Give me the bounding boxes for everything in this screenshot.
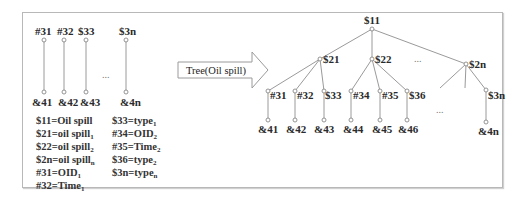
tree-level2-label: $2n [469,58,486,70]
legend-item: $33=type1 [112,115,157,128]
legend-item: $11=Oil spill [36,115,93,126]
arrow-label: Tree(Oil spill) [186,65,246,77]
chain-top-label: $3n [119,25,136,37]
tree-level3-label: $36 [409,89,426,101]
tree-level3-label: #31 [270,89,287,101]
tree-level2-label: $21 [323,53,340,65]
tree-level3-label: #35 [382,89,399,101]
chain-bottom-label: &43 [80,96,101,108]
legend: $11=Oil spill $21=oil spill1 $22=oil spi… [36,115,161,193]
diagram-canvas: #31 #32 $33 $3n ... &41 &42 &43 &4n $11=… [0,0,529,208]
tree-level3-label: $3n [488,89,505,101]
tree-leaf-label: &46 [398,123,419,135]
chain-top-label: #32 [57,25,74,37]
chain-bottom-label: &41 [32,96,52,108]
tree-leaf-label: &4n [478,125,499,137]
tree-nodes [266,27,488,124]
tree-leaf-label: &43 [314,123,335,135]
tree-level3-ellipsis: ... [436,104,444,115]
chain-ellipsis: ... [102,69,110,80]
transform-arrow: Tree(Oil spill) [178,52,268,88]
chain-bottom-label: &42 [58,96,79,108]
tree-level2-ellipsis: ... [414,53,422,64]
legend-item: #34=OID2 [112,128,158,141]
tree-leaf-label: &42 [286,123,307,135]
tree-leaf-label: &45 [372,123,393,135]
legend-item: $22=oil spill2 [36,141,94,154]
tree-root-label: $11 [364,14,380,26]
chain-bottom-label: &4n [120,96,141,108]
legend-item: $36=type2 [112,154,157,167]
chain-top-label: $33 [78,25,95,37]
legend-item: $2n=oil spilln [36,154,95,167]
tree-level3-label: #32 [297,89,314,101]
chain-top-label: #31 [35,25,52,37]
tree-leaf-label: &44 [343,123,364,135]
tree-edges [268,29,486,122]
legend-item: #31=OID1 [36,167,82,180]
tree-level3-label: #34 [353,89,370,101]
tree-level3-label: $33 [325,89,342,101]
legend-item: $21=oil spill1 [36,128,94,141]
legend-item: #35=Time2 [112,141,161,154]
legend-item: $3n=typen [112,167,158,180]
legend-item: #32=Time1 [36,180,85,193]
left-chains [42,38,128,94]
tree-level2-label: $22 [375,53,392,65]
tree-leaf-label: &41 [258,123,278,135]
